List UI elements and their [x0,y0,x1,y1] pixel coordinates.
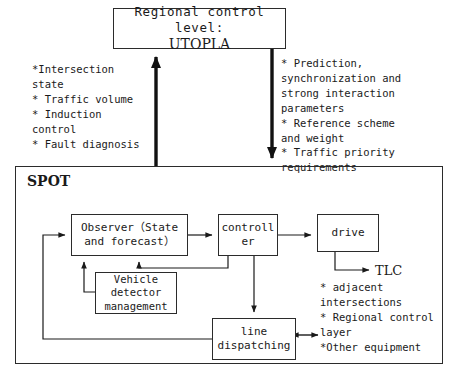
tlc-notes: * adjacent intersections * Regional cont… [320,280,450,355]
spot-label: SPOT [27,172,70,192]
observer-block: Observer（State and forecast） [71,214,188,256]
regional-control-level-box: Regional control level: UTOPLA [113,8,286,49]
controller-block: controll er [218,214,278,256]
vehicle-detector-management-block: Vehicle detector management [95,272,177,314]
line-dispatching-block: line dispatching [212,318,296,360]
regional-control-level-title: Regional control level: [114,4,285,36]
drive-block: drive [317,214,379,252]
utopla-label: UTOPLA [114,36,285,54]
diagram-canvas: Regional control level: UTOPLA *Intersec… [0,0,455,383]
upward-signal-notes: *Intersection state * Traffic volume * I… [32,62,152,151]
tlc-label: TLC [375,262,402,280]
downward-signal-notes: * Prediction, synchronization and strong… [281,56,446,175]
